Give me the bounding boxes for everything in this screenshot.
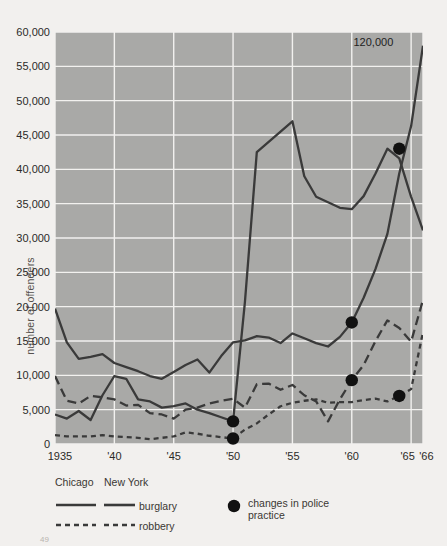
- legend-header-chicago: Chicago: [55, 476, 94, 488]
- page-number: 49: [40, 535, 49, 544]
- legend-header-newyork: New York: [104, 476, 148, 488]
- x-axis-tick: '45: [167, 450, 181, 462]
- legend-marker-label-line1: changes in police: [248, 497, 329, 509]
- x-axis-tick: 1935: [48, 450, 72, 462]
- x-axis-tick: '55: [285, 450, 299, 462]
- x-axis-tick: '65: [401, 450, 415, 462]
- value-annotation: 120,000: [353, 36, 393, 48]
- legend-marker-label-line2: practice: [248, 509, 285, 521]
- legend: Chicago New York burglary robbery change…: [0, 0, 447, 546]
- legend-label-burglary: burglary: [139, 500, 177, 512]
- x-axis-tick: '40: [107, 450, 121, 462]
- crime-statistics-chart: number of offenders 05,00010,00015,00020…: [0, 0, 447, 546]
- legend-label-robbery: robbery: [139, 520, 175, 532]
- x-axis-tick: '50: [226, 450, 240, 462]
- x-axis-tick: '66: [419, 450, 433, 462]
- legend-swatches: [0, 0, 447, 546]
- legend-swatch-police-marker: [228, 500, 240, 512]
- x-axis-tick: '60: [345, 450, 359, 462]
